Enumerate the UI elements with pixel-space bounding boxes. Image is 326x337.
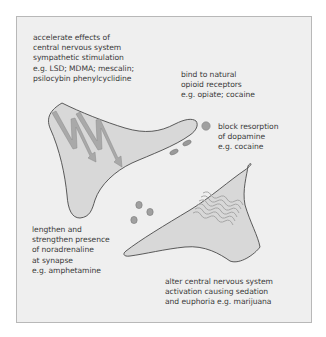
label-accelerate: accelerate effects of central nervous sy… [33, 33, 134, 84]
label-block-dopamine: block resorption of dopamine e.g. cocain… [218, 122, 278, 153]
vesicle [182, 139, 192, 147]
postsynaptic-neuron [124, 164, 260, 262]
label-bind-opioid: bind to natural opioid receptors e.g. op… [181, 70, 255, 101]
presynaptic-neuron [49, 103, 198, 218]
label-alter-cns: alter central nervous system activation … [165, 277, 273, 308]
label-lengthen-noradrenaline: lengthen and strengthen presence of nora… [32, 225, 110, 276]
vesicle [169, 148, 179, 156]
receptor-dot [202, 122, 210, 130]
neurotransmitter-vesicles [131, 201, 153, 223]
